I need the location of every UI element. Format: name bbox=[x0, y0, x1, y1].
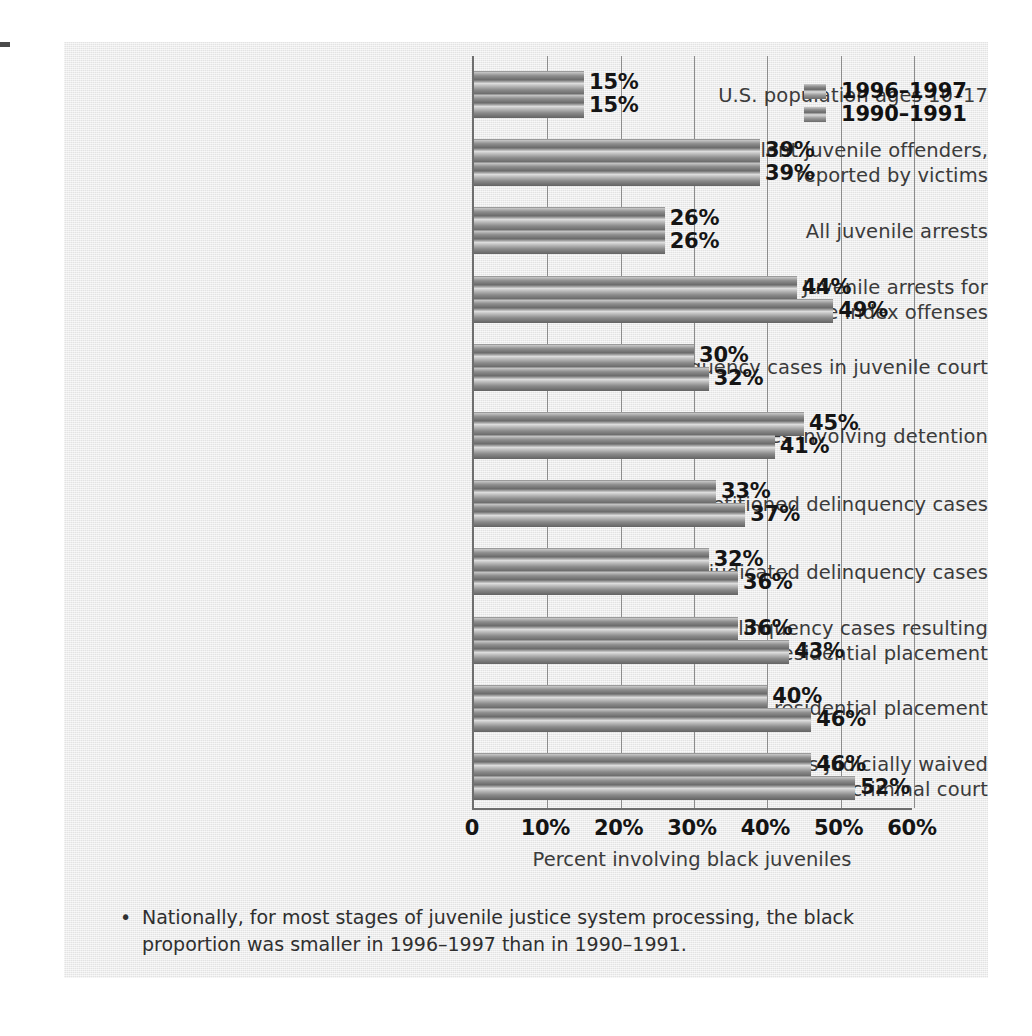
legend-label-0: 1996–1997 bbox=[841, 80, 967, 103]
bar-rect bbox=[474, 435, 775, 459]
figure-caption: • Nationally, for most stages of juvenil… bbox=[120, 904, 920, 958]
bar-value-label: 49% bbox=[838, 298, 888, 322]
bar-rect bbox=[474, 367, 709, 391]
bar-value-label: 45% bbox=[809, 411, 859, 435]
caption-bullet-icon: • bbox=[120, 904, 131, 931]
bar-rect bbox=[474, 276, 797, 300]
bar-rect bbox=[474, 162, 760, 186]
legend-item-0: 1996–1997 bbox=[804, 80, 994, 103]
bar-value-label: 52% bbox=[860, 775, 910, 799]
bar-value-label: 26% bbox=[670, 229, 720, 253]
bar-value-label: 39% bbox=[765, 161, 815, 185]
bar-value-label: 32% bbox=[714, 547, 764, 571]
x-tick-label-10: 10% bbox=[515, 816, 575, 840]
bar-rect bbox=[474, 503, 745, 527]
bar-rect bbox=[474, 548, 709, 572]
x-tick-label-30: 30% bbox=[662, 816, 722, 840]
bar-value-label: 40% bbox=[772, 684, 822, 708]
legend-item-1: 1990–1991 bbox=[804, 103, 994, 126]
bar-value-label: 15% bbox=[589, 93, 639, 117]
chart-legend: 1996–1997 1990–1991 bbox=[804, 80, 994, 126]
bar-rect bbox=[474, 230, 665, 254]
caption-text: Nationally, for most stages of juvenile … bbox=[142, 904, 920, 958]
bar-value-label: 30% bbox=[699, 343, 749, 367]
bar-rect bbox=[474, 139, 760, 163]
bar-rect bbox=[474, 617, 738, 641]
bar-value-label: 33% bbox=[721, 479, 771, 503]
x-tick-label-40: 40% bbox=[735, 816, 795, 840]
bar-value-label: 15% bbox=[589, 70, 639, 94]
bar-rect bbox=[474, 207, 665, 231]
bar-value-label: 32% bbox=[714, 366, 764, 390]
page-root: U.S. population ages 10–1715%15%Violent … bbox=[0, 0, 1032, 1036]
x-tick-label-60: 60% bbox=[882, 816, 942, 840]
bar-value-label: 44% bbox=[802, 275, 852, 299]
bar-rect bbox=[474, 412, 804, 436]
bar-rect bbox=[474, 94, 584, 118]
bar-rect bbox=[474, 753, 811, 777]
bar-value-label: 43% bbox=[794, 639, 844, 663]
bar-chart: U.S. population ages 10–1715%15%Violent … bbox=[64, 42, 988, 978]
legend-swatch-icon-1 bbox=[804, 107, 826, 122]
legend-label-1: 1990–1991 bbox=[841, 103, 967, 126]
bar-value-label: 39% bbox=[765, 138, 815, 162]
bar-value-label: 26% bbox=[670, 206, 720, 230]
page-edge-mark bbox=[0, 42, 10, 47]
x-tick-label-50: 50% bbox=[809, 816, 869, 840]
bar-rect bbox=[474, 571, 738, 595]
x-tick-label-20: 20% bbox=[589, 816, 649, 840]
bar-value-label: 41% bbox=[780, 434, 830, 458]
bar-rect bbox=[474, 708, 811, 732]
legend-swatch-icon-0 bbox=[804, 84, 826, 99]
figure-panel: U.S. population ages 10–1715%15%Violent … bbox=[64, 42, 988, 978]
bar-value-label: 46% bbox=[816, 707, 866, 731]
bar-value-label: 36% bbox=[743, 570, 793, 594]
bar-rect bbox=[474, 299, 833, 323]
bar-rect bbox=[474, 640, 789, 664]
bar-rect bbox=[474, 71, 584, 95]
bar-rect bbox=[474, 685, 767, 709]
bar-rect bbox=[474, 776, 855, 800]
bar-value-label: 46% bbox=[816, 752, 866, 776]
bar-value-label: 36% bbox=[743, 616, 793, 640]
bar-value-label: 37% bbox=[750, 502, 800, 526]
bar-rect bbox=[474, 344, 694, 368]
x-axis-title: Percent involving black juveniles bbox=[472, 848, 912, 871]
x-tick-label-0: 0 bbox=[442, 816, 502, 840]
bar-rect bbox=[474, 480, 716, 504]
